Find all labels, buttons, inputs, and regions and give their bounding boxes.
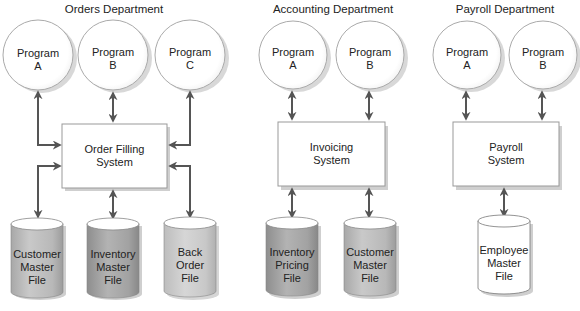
arrow-program-c-to-system <box>170 92 190 145</box>
accounting-department <box>259 21 408 299</box>
program-circle-orders-a <box>3 20 77 93</box>
order-filling-system-box <box>62 124 170 191</box>
program-circle-payroll-b <box>509 21 580 92</box>
file-cylinder-customer-master <box>11 218 66 300</box>
file-cylinder-inventory-pricing <box>266 217 321 299</box>
file-processing-diagram: Orders Department Accounting Department … <box>0 0 580 311</box>
program-circle-accounting-b <box>336 21 408 92</box>
payroll-system-box <box>453 122 562 190</box>
invoicing-system-box <box>278 122 388 190</box>
orders-department <box>3 20 229 300</box>
program-circle-orders-b <box>78 20 152 93</box>
arrow-program-a-to-system <box>38 92 60 145</box>
program-circle-accounting-a <box>259 21 331 92</box>
dept-title-accounting: Accounting Department <box>268 3 398 15</box>
dept-title-orders: Orders Department <box>58 3 170 15</box>
file-cylinder-inventory-master <box>87 218 142 300</box>
file-cylinder-employee-master <box>478 215 533 297</box>
diagram-canvas <box>0 0 580 311</box>
payroll-department <box>433 21 580 297</box>
file-cylinder-back-order <box>164 217 219 300</box>
file-cylinder-acct-customer-master <box>344 217 399 299</box>
arrow-system-to-customer-file <box>38 166 60 217</box>
program-circle-payroll-a <box>433 21 505 92</box>
dept-title-payroll: Payroll Department <box>445 3 565 15</box>
arrow-system-to-backorder-file <box>170 166 190 217</box>
program-circle-orders-c <box>155 20 229 93</box>
